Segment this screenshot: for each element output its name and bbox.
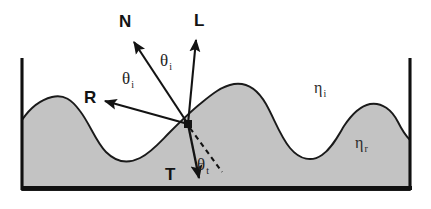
reflection-vector-label: R xyxy=(84,88,96,107)
theta-incident-right-label: θi xyxy=(160,51,172,72)
light-vector-label: L xyxy=(194,11,204,30)
incident-medium-label: ηi xyxy=(314,79,326,99)
diagram-canvas: N L R T θi θi θt ηi ηr xyxy=(0,0,431,209)
surface-interaction-point xyxy=(184,120,192,128)
optics-diagram-figure: N L R T θi θi θt ηi ηr xyxy=(0,0,431,209)
normal-vector-label: N xyxy=(119,12,131,31)
transmission-vector-label: T xyxy=(165,165,176,184)
theta-incident-left-label: θi xyxy=(122,69,134,90)
rough-surface-region xyxy=(22,84,410,190)
